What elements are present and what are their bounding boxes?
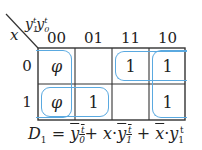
simplified-expression: D1 = y0t+ x·y1t + x·y1t [28,124,184,145]
cell-r0-c01 [75,48,112,84]
row-header-1: 1 [20,95,34,110]
group-xbar-y1 [115,51,187,81]
col-header-11: 11 [112,31,149,46]
row-variable-label: x [10,28,18,43]
cell-r1-c11 [112,84,149,120]
col-header-00: 00 [38,31,75,46]
group-x-y1bar [41,87,109,117]
col-header-01: 01 [75,31,112,46]
col-header-10: 10 [149,31,186,46]
row-header-0: 0 [20,59,34,74]
